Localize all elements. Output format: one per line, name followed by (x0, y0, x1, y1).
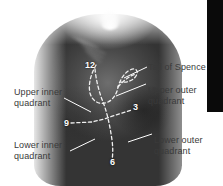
label-upper-inner-quadrant: Upper inner quadrant (14, 87, 62, 108)
breast-quadrant-diagram: 12 3 6 9 Tail of Spence Upper outer quad… (0, 0, 223, 186)
clock-label-6: 6 (110, 157, 115, 167)
clock-axis-vertical-dashed (95, 69, 113, 160)
label-tail-of-spence: Tail of Spence (148, 62, 206, 73)
clock-label-9: 9 (64, 118, 69, 128)
leader-line-lower-inner-quadrant (70, 139, 95, 151)
label-lower-inner-quadrant: Lower inner quadrant (14, 140, 62, 161)
breast-outline-dashed (89, 65, 137, 103)
label-lower-outer-quadrant: Lower outer quadrant (154, 135, 203, 156)
leader-line-upper-inner-quadrant (64, 98, 91, 112)
clock-label-3: 3 (133, 102, 138, 112)
clock-label-12: 12 (85, 60, 95, 70)
right-edge-black-bar (207, 0, 223, 112)
label-upper-outer-quadrant: Upper outer quadrant (148, 85, 197, 106)
leader-line-lower-outer-quadrant (128, 134, 152, 142)
leader-line-upper-outer-quadrant (116, 84, 146, 96)
clock-axis-horizontal-dashed (71, 110, 132, 123)
